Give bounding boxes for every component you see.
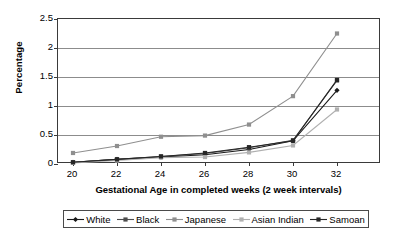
series-japanese	[71, 31, 339, 155]
plot-area	[57, 18, 380, 163]
legend-swatch-diamond-icon	[67, 215, 84, 224]
legend-item-japanese[interactable]: Japanese	[165, 214, 227, 225]
x-axis-tick-label: 24	[145, 168, 175, 179]
series-samoan	[71, 78, 339, 165]
series-lines	[58, 19, 381, 164]
legend-item-asian-indian[interactable]: Asian Indian	[232, 214, 305, 225]
x-axis-tick-label: 20	[57, 168, 87, 179]
legend-item-black[interactable]: Black	[116, 214, 160, 225]
legend-item-samoan[interactable]: Samoan	[309, 214, 365, 225]
y-axis-tick-label: 0	[19, 157, 53, 168]
legend-item-label: Samoan	[329, 214, 364, 225]
y-axis-tick-label: 0.5	[19, 128, 53, 139]
y-axis-tick-label: 1.5	[19, 70, 53, 81]
legend-swatch-square-icon	[233, 215, 250, 224]
y-axis-tick-label: 2	[19, 41, 53, 52]
x-axis-tick-label: 26	[189, 168, 219, 179]
legend-swatch-square-icon	[166, 215, 183, 224]
chart-legend: WhiteBlackJapaneseAsian IndianSamoan	[63, 210, 369, 228]
x-axis-tick-label: 22	[101, 168, 131, 179]
y-axis-tick-label: 1	[19, 99, 53, 110]
x-axis-tick-label: 30	[277, 168, 307, 179]
legend-item-white[interactable]: White	[66, 214, 111, 225]
y-axis-tick-mark	[54, 164, 58, 165]
x-axis-title: Gestational Age in completed weeks (2 we…	[57, 184, 380, 195]
y-axis-tick-label: 2.5	[19, 12, 53, 23]
legend-swatch-square-icon	[117, 215, 134, 224]
gestational-age-line-chart: Percentage 00.511.522.5 20222426283032 G…	[0, 0, 406, 239]
legend-swatch-square-icon	[310, 215, 327, 224]
legend-item-label: Black	[136, 214, 159, 225]
legend-item-label: White	[86, 214, 110, 225]
legend-item-label: Japanese	[185, 214, 226, 225]
legend-item-label: Asian Indian	[252, 214, 304, 225]
x-axis-tick-label: 28	[233, 168, 263, 179]
x-axis-tick-label: 32	[321, 168, 351, 179]
